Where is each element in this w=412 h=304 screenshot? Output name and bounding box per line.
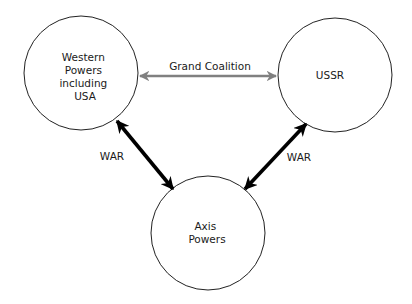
edge-war-right-label: WAR [287, 151, 311, 163]
edge-war-left-label: WAR [100, 150, 124, 162]
node-axis-powers: Axis Powers [151, 176, 265, 290]
node-western-powers: Western Powers including USA [24, 16, 138, 130]
relationship-diagram: Western Powers including USA USSR Axis P… [0, 0, 412, 304]
node-ussr-label: USSR [316, 69, 344, 81]
edge-war-left: WAR [100, 121, 173, 189]
node-ussr: USSR [278, 18, 392, 132]
edge-war-right: WAR [245, 124, 311, 189]
edge-grand-coalition: Grand Coalition [140, 60, 276, 76]
edge-grand-coalition-label: Grand Coalition [169, 60, 251, 72]
double-arrow-icon [117, 121, 173, 189]
